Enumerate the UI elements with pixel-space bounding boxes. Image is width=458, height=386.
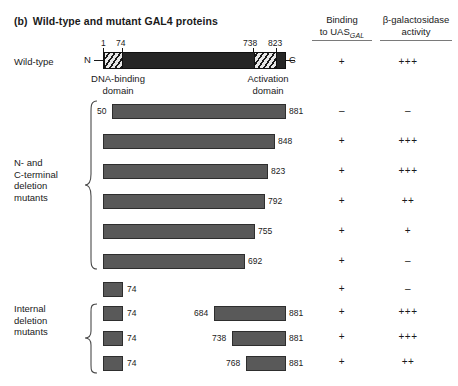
- bgal-header-rule: [380, 40, 452, 41]
- wildtype-protein-bar: [103, 52, 286, 69]
- bar-number-left-50: 50: [97, 106, 106, 116]
- binding-result-row2: +: [312, 135, 372, 146]
- binding-header-line1: Binding: [306, 14, 378, 26]
- mutant-bar-1-823: [103, 164, 268, 179]
- bar-number-internal3-mid-768: 768: [226, 358, 240, 368]
- binding-result-row6: +: [312, 255, 372, 266]
- bar-number-internal1-mid-684: 684: [194, 308, 208, 318]
- binding-result-row9: +: [312, 331, 372, 342]
- bar-number-right-692: 692: [248, 256, 262, 266]
- brace-internal: [84, 303, 98, 375]
- binding-header-subscript: GAL: [350, 31, 365, 38]
- nc-label-line1: N- and: [14, 157, 58, 169]
- bgal-result-row9: +++: [378, 331, 438, 342]
- activation-domain-region: [254, 53, 277, 68]
- dna-binding-domain-caption: DNA-binding domain: [66, 73, 170, 96]
- mutant-bar-internal3-left: [103, 356, 123, 371]
- binding-result-row3: +: [312, 165, 372, 176]
- page-title: (b)Wild-type and mutant GAL4 proteins: [14, 15, 218, 27]
- column-header-binding: Binding to UASGAL: [306, 14, 378, 41]
- wildtype-binding-result: +: [312, 56, 372, 67]
- mutant-bar-internal3-right: [246, 356, 286, 371]
- bgal-result-row1: –: [378, 105, 438, 116]
- mutant-bar-1-755: [103, 224, 255, 239]
- bar-number-internal1-left-74: 74: [127, 308, 136, 318]
- dna-binding-domain-region: [104, 53, 123, 68]
- bar-number-internal2-left-74: 74: [127, 333, 136, 343]
- c-terminus-connector: [286, 60, 295, 61]
- internal-label-line2: deletion: [14, 315, 48, 327]
- bgal-result-row6: –: [378, 255, 438, 266]
- bgal-result-row3: +++: [378, 165, 438, 176]
- mutant-bar-1-74: [103, 282, 123, 297]
- wildtype-bgal-result: +++: [378, 56, 438, 67]
- nc-label-line4: mutants: [14, 192, 58, 204]
- dna-caption-line2: domain: [66, 85, 170, 97]
- row-label-wildtype: Wild-type: [14, 56, 54, 68]
- bgal-result-row4: ++: [378, 195, 438, 206]
- binding-result-row8: +: [312, 306, 372, 317]
- bar-number-right-848: 848: [278, 136, 292, 146]
- bar-number-internal2-right-881: 881: [289, 333, 303, 343]
- binding-result-row10: +: [312, 356, 372, 367]
- nc-label-line3: deletion: [14, 180, 58, 192]
- activation-domain-caption: Activation domain: [222, 73, 314, 96]
- binding-result-row7: +: [312, 283, 372, 294]
- binding-result-row5: +: [312, 225, 372, 236]
- row-label-nc-terminal: N- and C-terminal deletion mutants: [14, 157, 58, 203]
- bar-number-internal3-right-881: 881: [289, 358, 303, 368]
- bgal-result-row8: +++: [378, 306, 438, 317]
- bgal-result-row7: –: [378, 283, 438, 294]
- bar-number-internal1-right-881: 881: [289, 308, 303, 318]
- column-header-bgal: β-galactosidase activity: [376, 14, 456, 37]
- residue-number-1: 1: [101, 38, 106, 48]
- figure-panel-b: (b)Wild-type and mutant GAL4 proteins Bi…: [0, 0, 458, 386]
- mutant-bar-1-792: [103, 194, 265, 209]
- act-caption-line2: domain: [222, 85, 314, 97]
- dna-caption-line1: DNA-binding: [66, 73, 170, 85]
- n-terminus-connector: [94, 60, 103, 61]
- mutant-bar-1-692: [103, 254, 245, 269]
- residue-number-74: 74: [116, 38, 125, 48]
- binding-header-uas: to UAS: [320, 26, 350, 37]
- binding-result-row1: –: [312, 105, 372, 116]
- bar-number-internal2-mid-738: 738: [212, 333, 226, 343]
- bgal-header-line2: activity: [376, 26, 456, 38]
- act-caption-line1: Activation: [222, 73, 314, 85]
- bgal-result-row2: +++: [378, 135, 438, 146]
- nc-label-line2: C-terminal: [14, 169, 58, 181]
- brace-nc-terminal: [84, 100, 98, 270]
- bar-number-right-823: 823: [271, 166, 285, 176]
- binding-header-rule: [312, 40, 372, 41]
- mutant-bar-1-848: [103, 134, 275, 149]
- binding-header-line2: to UASGAL: [306, 26, 378, 41]
- mutant-bar-internal1-right: [214, 306, 286, 321]
- bar-number-right-74: 74: [127, 284, 136, 294]
- panel-title-text: Wild-type and mutant GAL4 proteins: [33, 15, 218, 27]
- bar-number-right-755: 755: [258, 226, 272, 236]
- panel-tag: (b): [14, 15, 28, 27]
- internal-label-line1: Internal: [14, 303, 48, 315]
- mutant-bar-internal1-left: [103, 306, 123, 321]
- residue-number-823: 823: [268, 38, 282, 48]
- residue-number-738: 738: [243, 38, 257, 48]
- mutant-bar-internal2-right: [232, 331, 286, 346]
- binding-result-row4: +: [312, 195, 372, 206]
- bar-number-internal3-left-74: 74: [127, 358, 136, 368]
- mutant-bar-internal2-left: [103, 331, 123, 346]
- bgal-result-row5: +: [378, 225, 438, 236]
- row-label-internal: Internal deletion mutants: [14, 303, 48, 338]
- bar-number-right-881: 881: [289, 106, 303, 116]
- n-terminus-label: N: [84, 54, 91, 65]
- bgal-result-row10: ++: [378, 356, 438, 367]
- internal-label-line3: mutants: [14, 326, 48, 338]
- bar-number-right-792: 792: [268, 196, 282, 206]
- mutant-bar-50-881: [112, 104, 286, 119]
- bgal-header-line1: β-galactosidase: [376, 14, 456, 26]
